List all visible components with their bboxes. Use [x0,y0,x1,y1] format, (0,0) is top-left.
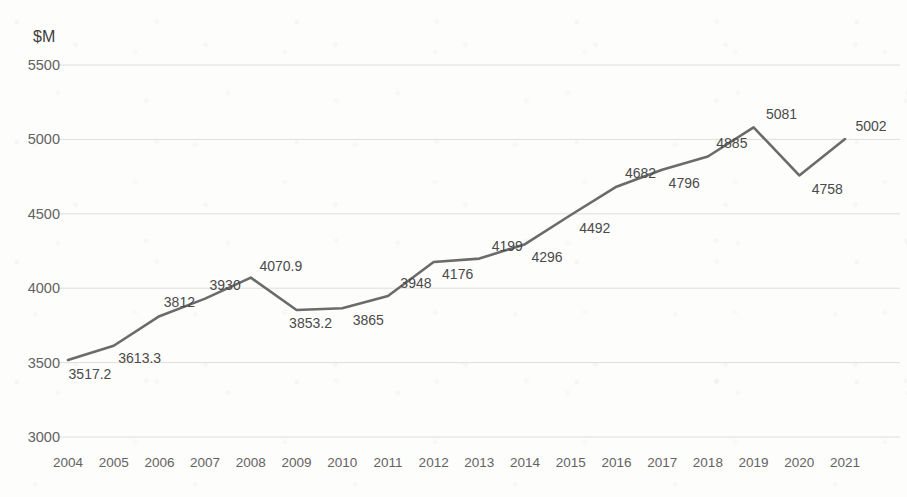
x-axis-tick-label: 2011 [373,455,402,470]
data-point-label: 5002 [855,118,886,134]
y-axis-tick-label: 5500 [8,57,60,73]
y-axis-tick-label: 3500 [8,355,60,371]
x-axis-tick-label: 2008 [236,455,266,470]
data-point-label: 4796 [669,175,700,191]
x-axis-tick-label: 2010 [327,455,357,470]
data-point-label: 4682 [625,165,656,181]
x-axis-tick-label: 2018 [693,455,723,470]
y-axis-tick-label: 4500 [8,206,60,222]
x-axis-tick-label: 2017 [647,455,677,470]
x-axis-tick-label: 2019 [739,455,769,470]
x-axis-tick-label: 2005 [99,455,129,470]
data-point-label: 3948 [400,275,431,291]
x-axis-tick-label: 2013 [464,455,494,470]
x-axis-tick-label: 2007 [190,455,220,470]
data-point-label: 4176 [442,266,473,282]
x-axis-tick-label: 2004 [53,455,83,470]
data-point-label: 3613.3 [118,350,161,366]
x-axis-tick-label: 2021 [830,455,860,470]
y-axis-tick-label: 3000 [8,429,60,445]
data-point-label: 3930 [210,277,241,293]
data-point-label: 3853.2 [289,315,332,331]
data-point-label: 3865 [353,312,384,328]
chart-page: $M 550050004500400035003000 200420052006… [0,0,907,497]
data-point-label: 4758 [812,181,843,197]
data-point-label: 3517.2 [69,366,112,382]
data-point-label: 4492 [579,220,610,236]
data-point-label: 4070.9 [259,258,302,274]
x-axis-tick-label: 2020 [784,455,814,470]
x-axis-tick-label: 2014 [510,455,540,470]
data-point-label: 5081 [766,106,797,122]
data-point-label: 4296 [531,249,562,265]
x-axis-tick-label: 2009 [281,455,311,470]
data-point-label: 4199 [492,238,523,254]
x-axis-tick-label: 2016 [601,455,631,470]
x-axis-tick-label: 2015 [556,455,586,470]
x-axis-tick-label: 2012 [419,455,449,470]
data-point-label: 4885 [716,135,747,151]
y-axis-tick-label: 5000 [8,131,60,147]
y-axis-tick-label: 4000 [8,280,60,296]
data-point-label: 3812 [164,294,195,310]
x-axis-tick-label: 2006 [144,455,174,470]
chart-plot-area [0,0,907,497]
series-line-total [68,127,845,360]
